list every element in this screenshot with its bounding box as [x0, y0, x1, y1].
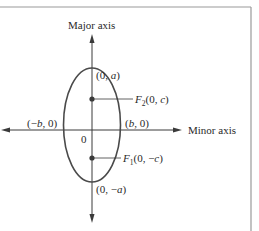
major-axis-down-arrow-icon: [90, 214, 95, 223]
vertex-top-label: (0, a): [96, 69, 120, 82]
covertex-left-label: (−b, 0): [27, 117, 57, 130]
origin-label: 0: [81, 133, 87, 145]
ellipse-diagram: Major axis Minor axis 0 (0, a) (0, −a) (…: [0, 0, 259, 231]
focus-f2-label: F2(0, c): [134, 93, 169, 108]
major-axis-label: Major axis: [68, 19, 115, 31]
major-axis-up-arrow-icon: [90, 34, 95, 43]
vertex-bottom-label: (0, −a): [96, 183, 126, 196]
covertex-right-label: (b, 0): [125, 117, 149, 130]
minor-axis-right-arrow-icon: [173, 128, 182, 133]
minor-axis-label: Minor axis: [188, 124, 236, 136]
minor-axis-left-arrow-icon: [1, 128, 10, 133]
focus-f1-label: F1(0, −c): [122, 152, 163, 167]
